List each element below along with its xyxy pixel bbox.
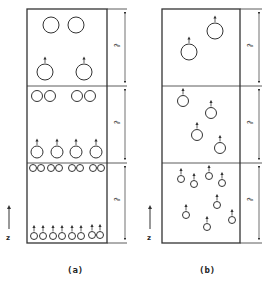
bubble — [68, 17, 84, 33]
bubble — [69, 233, 76, 240]
bubble — [43, 17, 59, 33]
bubble — [59, 233, 66, 240]
bubble — [77, 165, 84, 172]
bubble — [98, 165, 105, 172]
bubble — [50, 233, 57, 240]
bubble — [206, 108, 217, 119]
bubble — [37, 64, 53, 80]
column-frame — [27, 9, 107, 243]
bubble — [85, 91, 96, 102]
bubble — [31, 233, 38, 240]
panel-a — [9, 9, 127, 243]
bubble — [219, 180, 226, 187]
bubble-column-diagram — [0, 0, 266, 284]
bubble — [70, 146, 82, 158]
panel-a-section2-length-label: ℓ — [112, 120, 122, 124]
bubble — [30, 165, 37, 172]
bubble — [178, 176, 185, 183]
panel-b-section1-length-label: ℓ — [245, 43, 255, 47]
bubble — [90, 146, 102, 158]
bubble — [32, 91, 43, 102]
panel-a-section3-length-label: ℓ — [112, 197, 122, 201]
panel-b-section3-length-label: ℓ — [245, 197, 255, 201]
bubble — [204, 224, 211, 231]
panel-a-section1-length-label: ℓ — [112, 43, 122, 47]
bubble — [97, 232, 104, 239]
bubble — [178, 96, 189, 107]
column-frame — [162, 9, 240, 243]
panel-b-z-axis-label: z — [147, 234, 151, 242]
bubble — [76, 64, 92, 80]
bubble — [192, 130, 203, 141]
panel-b-section2-length-label: ℓ — [245, 120, 255, 124]
bubble — [31, 146, 43, 158]
bubble — [40, 233, 47, 240]
bubble — [69, 165, 76, 172]
bubble — [191, 181, 198, 188]
panel-a-caption: (a) — [67, 265, 83, 275]
bubble — [207, 23, 223, 39]
bubble — [181, 44, 197, 60]
bubble — [215, 143, 226, 154]
panel-b-caption: (b) — [199, 265, 215, 275]
bubble — [48, 165, 55, 172]
bubble — [89, 232, 96, 239]
bubble — [56, 165, 63, 172]
bubble — [214, 202, 221, 209]
bubble — [51, 146, 63, 158]
bubble — [45, 91, 56, 102]
bubble — [90, 165, 97, 172]
bubble — [78, 233, 85, 240]
bubble — [206, 173, 213, 180]
bubble — [72, 91, 83, 102]
bubble — [229, 217, 236, 224]
bubble — [183, 212, 190, 219]
bubble — [38, 165, 45, 172]
panel-a-z-axis-label: z — [6, 234, 10, 242]
